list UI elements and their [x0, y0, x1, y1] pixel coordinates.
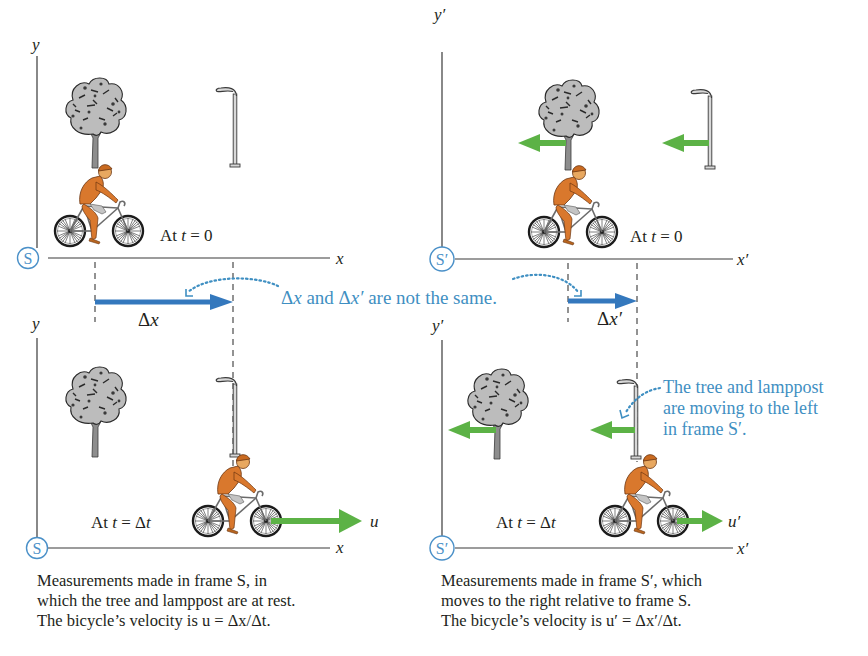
time-label: At t = Δt: [496, 513, 557, 532]
bicycle-rider-icon: [529, 166, 617, 247]
velocity-label: u′: [728, 512, 741, 531]
caption-line: Measurements made in frame S, in: [37, 571, 295, 591]
delta-x-prime-label: Δx′: [597, 308, 623, 329]
delta-x-label: Δx: [138, 309, 159, 330]
annotation-line: The tree and lamppost: [663, 377, 823, 397]
y-axis-label: y: [30, 35, 40, 54]
time-label: At t = 0: [160, 226, 213, 245]
velocity-arrow-left: [590, 421, 635, 439]
bicycle-rider-icon: [55, 165, 143, 246]
lamppost-icon: [617, 380, 641, 459]
frame-label: S′: [436, 251, 448, 268]
annotation-not-same: Δx and Δx′ are not the same.: [186, 275, 581, 308]
tree-icon: [66, 78, 126, 168]
displacement-delta-x: Δx: [95, 294, 233, 330]
tree-icon: [468, 369, 528, 459]
panel-s-tdt: y x S u At t = Δt: [27, 314, 379, 559]
caption-right: Measurements made in frame S′, which mov…: [441, 571, 702, 631]
caption-line: Measurements made in frame S′, which: [441, 571, 702, 591]
caption-line: which the tree and lamppost are at rest.: [37, 591, 295, 611]
bicycle-rider-icon: [193, 455, 281, 536]
x-axis-label: x: [335, 538, 344, 557]
lamppost-icon: [691, 90, 715, 169]
caption-left: Measurements made in frame S, in which t…: [37, 571, 295, 631]
lamppost-icon: [216, 88, 240, 167]
annotation-line: are moving to the left: [663, 398, 818, 418]
annotation-text: Δx and Δx′ are not the same.: [281, 287, 497, 308]
caption-line: The bicycle’s velocity is u′ = Δx′/Δt.: [441, 611, 702, 631]
relativity-frames-diagram: y x S At t = 0 y′ x′ S′ At t = 0: [0, 0, 868, 656]
x-axis-label: x: [335, 249, 344, 268]
bicycle-rider-icon: [600, 455, 688, 536]
velocity-arrow-left: [662, 134, 709, 152]
frame-label: S′: [436, 540, 448, 557]
caption-line: The bicycle’s velocity is u = Δx/Δt.: [37, 611, 295, 631]
y-prime-axis-label: y′: [430, 316, 444, 335]
lamppost-icon: [216, 378, 240, 457]
x-prime-axis-label: x′: [736, 539, 749, 558]
velocity-arrow-u-prime: [677, 510, 723, 532]
frame-label: S: [33, 540, 42, 557]
tree-icon: [539, 80, 599, 170]
velocity-label: u: [370, 512, 379, 531]
y-prime-axis-label: y′: [432, 5, 446, 24]
panel-sprime-t0: y′ x′ S′ At t = 0: [430, 5, 749, 271]
caption-line: moves to the right relative to frame S.: [441, 591, 702, 611]
panel-s-t0: y x S At t = 0: [18, 35, 345, 269]
x-prime-axis-label: x′: [736, 250, 749, 269]
annotation-line: in frame S′.: [663, 419, 746, 439]
displacement-delta-x-prime: Δx′: [568, 293, 637, 329]
y-axis-label: y: [30, 314, 40, 333]
time-label: At t = 0: [630, 227, 683, 246]
annotation-moving-left: The tree and lamppost are moving to the …: [620, 377, 823, 439]
time-label: At t = Δt: [91, 513, 152, 532]
velocity-arrow-u: [271, 509, 362, 533]
frame-label: S: [24, 250, 33, 267]
tree-icon: [66, 367, 126, 457]
